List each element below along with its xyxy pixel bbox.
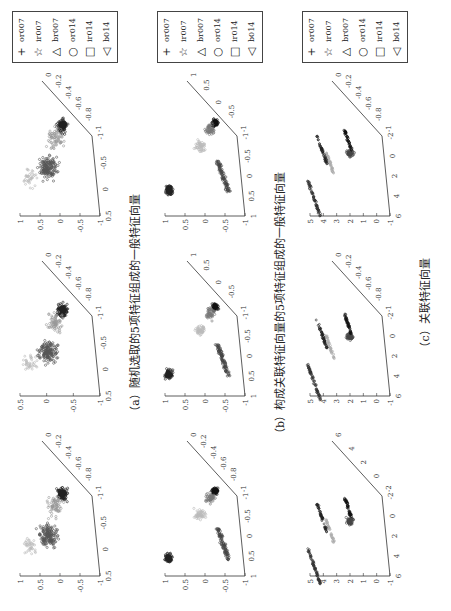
svg-text:-0.5: -0.5 — [100, 336, 108, 350]
svg-text:-0.8: -0.8 — [85, 108, 93, 122]
plot-b1: 10.50-0.5-110.50-0.5-1-1-0.8-0.6-0.4-0.2… — [145, 426, 270, 606]
svg-text:0.5: 0.5 — [182, 579, 190, 590]
svg-text:-1: -1 — [97, 133, 105, 140]
svg-text:-0.5: -0.5 — [100, 156, 108, 170]
svg-text:6: 6 — [335, 432, 343, 437]
legend-item: □ir014 — [371, 12, 388, 62]
svg-text:0: 0 — [373, 474, 381, 478]
svg-text:1: 1 — [360, 399, 368, 403]
legend-marker-icon: △ — [339, 45, 352, 59]
svg-text:1: 1 — [190, 253, 198, 257]
svg-text:2: 2 — [391, 354, 399, 358]
legend-c: +or007☆ir007△br007○or014□ir014◁b014 — [302, 11, 408, 63]
svg-text:0: 0 — [389, 514, 397, 518]
row-b: 10.50-0.5-110.50-0.5-1-1-0.8-0.6-0.4-0.2… — [145, 0, 290, 611]
legend-label: or014 — [358, 18, 367, 42]
legend-item: △br007 — [192, 12, 209, 62]
legend-label: ir014 — [230, 20, 239, 42]
svg-text:1: 1 — [250, 574, 258, 578]
svg-text:0: 0 — [246, 174, 254, 178]
svg-text:-0.8: -0.8 — [85, 288, 93, 302]
svg-text:-0.5: -0.5 — [244, 329, 252, 343]
svg-text:-0.5: -0.5 — [100, 516, 108, 530]
scatter3d-plot: 0.50-0.5-10.50-0.5-1-1-0.8-0.6-0.4-0.20 — [0, 246, 125, 426]
caption-c: （c）关联特征向量 — [416, 0, 432, 611]
svg-text:-1: -1 — [242, 133, 250, 140]
svg-text:-0.6: -0.6 — [75, 276, 83, 290]
svg-text:-0.8: -0.8 — [375, 288, 383, 302]
svg-text:0.5: 0.5 — [248, 190, 256, 201]
svg-text:-0.6: -0.6 — [365, 96, 373, 110]
svg-text:0: 0 — [190, 433, 198, 437]
svg-text:-0.5: -0.5 — [228, 285, 236, 299]
svg-text:-0.2: -0.2 — [345, 75, 353, 89]
plot-a1: 10.50-0.5-10.50-0.5-1-1-0.8-0.6-0.4-0.20 — [0, 426, 125, 606]
row-c: 543210-16420-2-20246 543210-16420-2-1-0.… — [290, 0, 435, 611]
svg-text:0.5: 0.5 — [203, 80, 211, 91]
svg-text:-1: -1 — [95, 305, 103, 312]
legend-marker-icon: ◁ — [390, 45, 403, 59]
scatter-points — [22, 301, 69, 370]
svg-text:-1: -1 — [240, 485, 248, 492]
svg-text:-1: -1 — [242, 399, 250, 406]
legend-marker-icon: ☆ — [177, 45, 190, 59]
legend-marker-icon: □ — [373, 45, 386, 59]
svg-text:-2: -2 — [387, 133, 395, 140]
svg-text:0: 0 — [102, 187, 110, 191]
svg-text:0.5: 0.5 — [105, 570, 113, 581]
plot-b2: 10.50-0.5-110.50-0.5-1-1-0.500.51 — [145, 246, 270, 426]
legend-label: ir014 — [375, 20, 384, 42]
svg-text:0.5: 0.5 — [105, 210, 113, 221]
svg-text:0: 0 — [373, 579, 381, 583]
svg-text:2: 2 — [391, 534, 399, 538]
svg-text:4: 4 — [348, 446, 356, 451]
svg-text:4: 4 — [393, 373, 401, 378]
svg-text:1: 1 — [17, 219, 25, 223]
legend-marker-icon: ○ — [66, 45, 79, 59]
svg-text:-1: -1 — [97, 219, 105, 226]
svg-text:0: 0 — [202, 219, 210, 223]
svg-text:6: 6 — [395, 213, 403, 218]
svg-text:-0.2: -0.2 — [55, 255, 63, 269]
legend-label: ir007 — [324, 20, 333, 42]
svg-text:4: 4 — [393, 553, 401, 558]
svg-text:6: 6 — [395, 573, 403, 578]
svg-text:-0.5: -0.5 — [222, 399, 230, 413]
legend-marker-icon: + — [160, 45, 173, 59]
scatter-points — [164, 303, 231, 381]
svg-text:-2: -2 — [385, 485, 393, 492]
svg-text:-1: -1 — [387, 579, 395, 586]
svg-text:1: 1 — [360, 219, 368, 223]
svg-text:-1: -1 — [387, 399, 395, 406]
legend-label: or014 — [68, 18, 77, 42]
legend-item: +or007 — [158, 12, 175, 62]
legend-marker-icon: ☆ — [322, 45, 335, 59]
svg-text:0.5: 0.5 — [37, 579, 45, 590]
svg-text:-0.6: -0.6 — [75, 96, 83, 110]
plot-c2: 543210-16420-2-1-0.8-0.6-0.4-0.20 — [290, 246, 415, 426]
legend-label: br007 — [51, 18, 60, 42]
svg-text:3: 3 — [333, 219, 341, 223]
legend-item: ◁b014 — [388, 12, 405, 62]
svg-text:0: 0 — [389, 334, 397, 338]
scatter3d-plot: 543210-16420-2-1-0.8-0.6-0.4-0.20 — [290, 246, 415, 426]
svg-text:-0.5: -0.5 — [77, 219, 85, 233]
svg-text:2: 2 — [391, 174, 399, 178]
svg-text:4: 4 — [320, 218, 328, 223]
legend-item: +or007 — [303, 12, 320, 62]
legend-item: ◁b014 — [98, 12, 115, 62]
svg-text:0: 0 — [246, 354, 254, 358]
caption-a: （a）随机选取的5项特征组成的一般特征向量 — [126, 0, 142, 611]
svg-text:-0.8: -0.8 — [230, 468, 238, 482]
svg-text:-1: -1 — [242, 313, 250, 320]
svg-text:-1: -1 — [97, 399, 105, 406]
legend-item: ○or014 — [209, 12, 226, 62]
svg-text:0: 0 — [246, 534, 254, 538]
scatter-points — [23, 117, 69, 190]
legend-label: br007 — [341, 18, 350, 42]
svg-text:1: 1 — [162, 219, 170, 223]
scatter-points — [306, 313, 354, 401]
svg-text:0: 0 — [45, 73, 53, 77]
legend-marker-icon: ☆ — [32, 45, 45, 59]
svg-text:-1: -1 — [385, 125, 393, 132]
